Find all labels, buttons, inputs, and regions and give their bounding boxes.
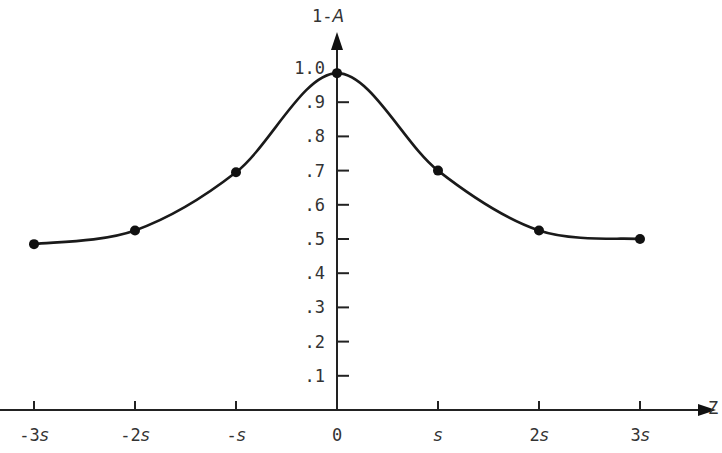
y-tick-label: .9: [305, 92, 325, 112]
y-tick-label: .4: [305, 263, 325, 283]
y-tick-label: 1.0: [294, 58, 325, 78]
y-axis-label: 1-A: [312, 6, 344, 26]
data-point: [231, 167, 241, 177]
y-tick-label: .1: [305, 366, 325, 386]
x-tick-label: 3s: [630, 425, 649, 445]
data-point: [332, 68, 342, 78]
x-tick-label: s: [434, 425, 443, 445]
x-tick-label: -3s: [19, 425, 48, 445]
x-tick-label: -s: [226, 425, 245, 445]
x-tick-label: 2s: [529, 425, 548, 445]
axes: [0, 44, 702, 410]
data-point: [534, 225, 544, 235]
y-tick-label: .6: [305, 195, 325, 215]
y-tick-label: .2: [305, 332, 325, 352]
y-tick-label: .7: [305, 161, 325, 181]
y-axis-arrow-icon: [331, 32, 343, 50]
x-axis-label: Z: [708, 398, 718, 418]
data-point: [433, 166, 443, 176]
x-tick-label: 0: [332, 425, 342, 445]
y-tick-label: .8: [305, 126, 325, 146]
x-tick-label: -2s: [120, 425, 149, 445]
y-tick-label: .5: [305, 229, 325, 249]
data-point: [635, 234, 645, 244]
chart: -3s-2s-s0s2s3s.1.2.3.4.5.6.7.8.91.0 1-A …: [0, 0, 722, 453]
y-tick-label: .3: [305, 297, 325, 317]
data-point: [29, 239, 39, 249]
tick-labels: -3s-2s-s0s2s3s.1.2.3.4.5.6.7.8.91.0: [19, 58, 649, 445]
data-point: [130, 225, 140, 235]
